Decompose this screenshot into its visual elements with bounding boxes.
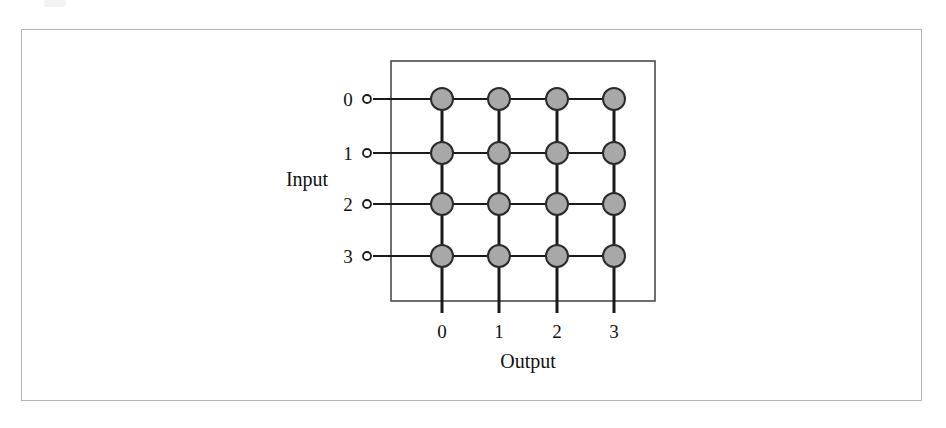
input-terminal-2-icon <box>363 200 371 208</box>
crosspoint-node[interactable] <box>546 142 568 164</box>
output-label-2: 2 <box>552 321 562 342</box>
input-terminal-3-icon <box>363 252 371 260</box>
crosspoint-node[interactable] <box>488 245 510 267</box>
crosspoint-node[interactable] <box>431 142 453 164</box>
input-label-1: 1 <box>343 143 353 164</box>
input-terminals <box>363 95 371 260</box>
crosspoint-node[interactable] <box>603 245 625 267</box>
crosspoint-node[interactable] <box>603 193 625 215</box>
crosspoint-node[interactable] <box>546 193 568 215</box>
output-lines <box>442 88 614 313</box>
crosspoint-node[interactable] <box>546 88 568 110</box>
input-terminal-0-icon <box>363 95 371 103</box>
input-label-2: 2 <box>343 194 353 215</box>
crosspoint-node[interactable] <box>488 193 510 215</box>
input-terminal-1-icon <box>363 149 371 157</box>
figure-root: 0 1 2 3 Input 0 1 2 3 Output <box>0 0 946 428</box>
crosspoint-node[interactable] <box>431 193 453 215</box>
output-axis-label: Output <box>500 350 556 373</box>
crosspoint-node[interactable] <box>546 245 568 267</box>
output-label-3: 3 <box>609 321 619 342</box>
crossbar-diagram: 0 1 2 3 Input 0 1 2 3 Output <box>0 0 946 428</box>
output-label-1: 1 <box>494 321 504 342</box>
input-label-0: 0 <box>343 89 353 110</box>
crosspoint-node[interactable] <box>431 245 453 267</box>
input-lines <box>373 99 614 256</box>
crosspoint-node[interactable] <box>488 142 510 164</box>
crosspoint-node[interactable] <box>488 88 510 110</box>
crosspoint-node[interactable] <box>603 142 625 164</box>
crosspoint-node[interactable] <box>603 88 625 110</box>
input-axis-label: Input <box>286 168 329 191</box>
output-label-0: 0 <box>437 321 447 342</box>
input-label-3: 3 <box>343 246 353 267</box>
crosspoint-node[interactable] <box>431 88 453 110</box>
